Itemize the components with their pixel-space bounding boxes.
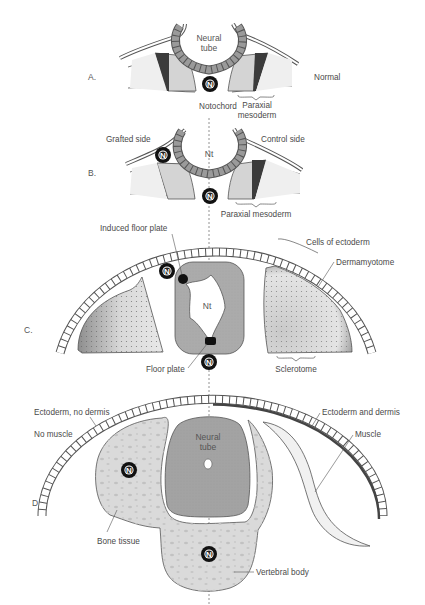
- floor-plate-label: Floor plate: [146, 365, 185, 374]
- svg-text:N: N: [160, 151, 166, 160]
- control-side-label: Control side: [261, 135, 305, 144]
- notochord-icon: N: [202, 76, 218, 92]
- embryo-diagram: A. Neural tube N Notochord Parax: [0, 0, 425, 605]
- floor-plate: [205, 337, 216, 345]
- dermamyotome-label: Dermamyotome: [336, 258, 395, 267]
- svg-text:N: N: [206, 358, 212, 367]
- nt-label-b: Nt: [205, 149, 214, 159]
- nt-label-c: Nt: [203, 301, 212, 311]
- neural-tube-label-a1: Neural: [196, 33, 221, 43]
- neural-tube-label-d1: Neural: [195, 432, 220, 442]
- svg-text:N: N: [164, 267, 170, 276]
- no-muscle-label: No muscle: [34, 430, 73, 439]
- panel-d: D. Neural tube N N Ectoderm, no de: [32, 399, 400, 591]
- svg-text:N: N: [206, 550, 212, 559]
- paraxial-label-b: Paraxial mesoderm: [221, 210, 292, 219]
- svg-text:N: N: [207, 80, 213, 89]
- notochord-icon: N: [201, 546, 217, 562]
- cells-of-ectoderm-label: Cells of ectoderm: [306, 238, 370, 247]
- induced-floor-plate: [178, 274, 188, 284]
- panel-label-b: B.: [88, 168, 96, 178]
- condition-label: Normal: [314, 73, 341, 82]
- notochord-icon: N: [202, 188, 218, 204]
- neural-tube-label-a2: tube: [201, 43, 218, 53]
- svg-text:N: N: [207, 192, 213, 201]
- induced-floor-plate-label: Induced floor plate: [100, 224, 168, 233]
- notochord-icon: N: [201, 354, 217, 370]
- panel-b: B. Grafted side Control side Nt N: [88, 129, 305, 219]
- paraxial-label-a1: Paraxial: [242, 101, 272, 110]
- vertebral-body-label: Vertebral body: [256, 568, 310, 577]
- paraxial-label-a2: mesoderm: [238, 111, 277, 120]
- grafted-side-label: Grafted side: [106, 135, 151, 144]
- grafted-notochord-icon: N: [155, 147, 171, 163]
- ectoderm-and-dermis-label: Ectoderm and dermis: [322, 408, 400, 417]
- svg-text:N: N: [126, 466, 132, 475]
- muscle-label: Muscle: [355, 430, 381, 439]
- neural-tube-label-d2: tube: [200, 442, 217, 452]
- panel-label-a: A.: [88, 72, 96, 82]
- panel-label-c: C.: [24, 325, 33, 335]
- ectoderm-no-dermis-label: Ectoderm, no dermis: [34, 408, 110, 417]
- notochord-label: Notochord: [199, 102, 237, 111]
- bone-tissue-label: Bone tissue: [97, 537, 140, 546]
- grafted-notochord-icon: N: [159, 263, 175, 279]
- panel-a: A. Neural tube N Notochord Parax: [88, 24, 341, 120]
- notochord-icon: N: [121, 462, 137, 478]
- sclerotome-label: Sclerotome: [275, 365, 317, 374]
